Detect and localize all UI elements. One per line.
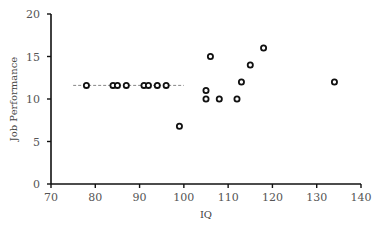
- x-tick-label: 90: [133, 191, 147, 204]
- data-point: [164, 83, 169, 88]
- y-tick-label: 0: [33, 178, 40, 191]
- data-point: [115, 83, 120, 88]
- x-tick-label: 120: [262, 191, 283, 204]
- data-points: [84, 45, 337, 128]
- y-tick-label: 5: [33, 136, 40, 149]
- y-axis-title: Job Performance: [8, 57, 19, 143]
- y-tick-label: 15: [26, 51, 40, 64]
- data-point: [239, 79, 244, 84]
- x-axis-title: IQ: [200, 209, 212, 220]
- data-point: [203, 96, 208, 101]
- data-point: [217, 96, 222, 101]
- x-tick-label: 80: [88, 191, 102, 204]
- x-tick-label: 130: [306, 191, 327, 204]
- y-tick-label: 10: [26, 93, 40, 106]
- axes: 70809010011012013014005101520: [26, 8, 372, 204]
- scatter-chart: 70809010011012013014005101520 IQ Job Per…: [0, 0, 375, 228]
- data-point: [146, 83, 151, 88]
- data-point: [84, 83, 89, 88]
- data-point: [261, 45, 266, 50]
- x-tick-label: 100: [173, 191, 194, 204]
- x-tick-label: 140: [351, 191, 372, 204]
- data-point: [203, 88, 208, 93]
- data-point: [155, 83, 160, 88]
- data-point: [248, 62, 253, 67]
- data-point: [177, 124, 182, 129]
- data-point: [208, 54, 213, 59]
- data-point: [234, 96, 239, 101]
- data-point: [124, 83, 129, 88]
- x-tick-label: 110: [218, 191, 239, 204]
- data-point: [332, 79, 337, 84]
- x-tick-label: 70: [44, 191, 58, 204]
- y-tick-label: 20: [26, 8, 40, 21]
